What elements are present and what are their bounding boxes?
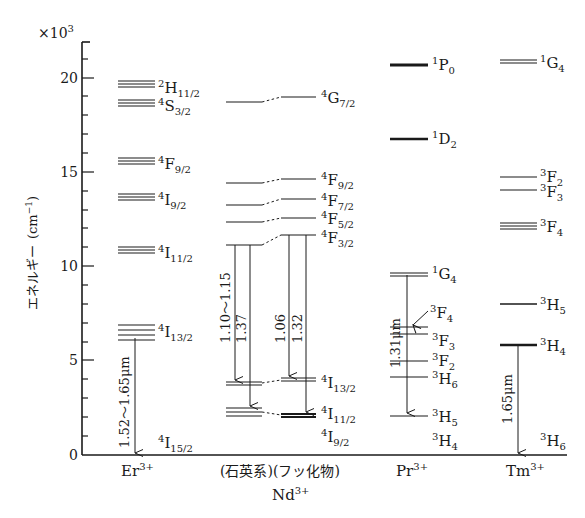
svg-text:4I9/2: 4I9/2	[321, 427, 349, 448]
er-term-labels: 2H11/2 4S3/2 4F9/2 4I9/2 4I11/2 4I13/2 4…	[158, 78, 200, 454]
er-transition-label: 1.52〜1.65μm	[117, 356, 132, 448]
svg-text:3F4: 3F4	[540, 217, 563, 238]
svg-text:3F3: 3F3	[432, 331, 455, 352]
pr-ion-levels: 1.31μm 1P0 1D2 1G4 3F4 3F3 3F2 3H6 3H5 3…	[388, 55, 458, 452]
nd-ion-levels: 1.10〜1.15 1.37 1.06 1.32 4G7/2 4F9/2 4F7…	[218, 88, 356, 448]
svg-text:4I11/2: 4I11/2	[321, 404, 356, 425]
svg-text:3H6: 3H6	[432, 369, 458, 390]
nd-silica-levels	[226, 102, 262, 416]
nd-host-connectors	[262, 97, 281, 415]
svg-text:4F5/2: 4F5/2	[321, 209, 354, 230]
svg-text:1G4: 1G4	[432, 264, 457, 285]
ion-label-nd-hosts: (石英系)(フッ化物)	[220, 463, 340, 479]
term-er-4I11/2: 4I11/2	[158, 243, 193, 264]
svg-text:3H5: 3H5	[432, 407, 458, 428]
nd-fluoride-label-b: 1.32	[290, 314, 305, 343]
y-tick-label-0: 0	[69, 447, 78, 463]
ion-labels: Er3+ (石英系)(フッ化物) Nd3+ Pr3+ Tm3+	[121, 461, 545, 504]
nd-term-labels: 4G7/2 4F9/2 4F7/2 4F5/2 4F3/2 4I13/2 4I1…	[321, 88, 356, 448]
ion-label-er: Er3+	[121, 461, 154, 480]
ion-label-nd: Nd3+	[272, 485, 309, 504]
y-axis: ×103 0 5 10 15 20 エネルギー(cm−1)	[24, 23, 94, 463]
energy-level-diagram: ×103 0 5 10 15 20 エネルギー(cm−1)	[0, 0, 585, 518]
tm-transition-label: 1.65μm	[500, 374, 515, 424]
term-er-4I13/2: 4I13/2	[158, 322, 193, 343]
er-ion-levels: 2H11/2 4S3/2 4F9/2 4I9/2 4I11/2 4I13/2 4…	[117, 78, 200, 454]
nd-silica-label-a: 1.10〜1.15	[218, 272, 233, 343]
svg-text:3H6: 3H6	[540, 431, 566, 452]
svg-text:4F9/2: 4F9/2	[321, 170, 354, 191]
tm-term-labels: 1G4 3F2 3F3 3F4 3H5 3H4 3H6	[540, 53, 566, 452]
term-er-4F9/2: 4F9/2	[158, 154, 191, 175]
svg-text:4G7/2: 4G7/2	[321, 88, 355, 109]
svg-text:3F4: 3F4	[430, 303, 453, 324]
y-major-ticks	[82, 78, 94, 360]
tm-ion-levels: 1.65μm 1G4 3F2 3F3 3F4 3H5 3H4 3H6	[500, 53, 566, 453]
term-er-4I9/2: 4I9/2	[158, 190, 186, 211]
axis-multiplier: ×103	[38, 23, 74, 41]
y-minor-ticks	[82, 59, 88, 436]
svg-text:1D2: 1D2	[432, 129, 457, 150]
term-er-4S3/2: 4S3/2	[158, 96, 191, 117]
svg-text:4I13/2: 4I13/2	[321, 373, 356, 394]
svg-text:3H5: 3H5	[540, 295, 566, 316]
svg-text:3H4: 3H4	[432, 431, 458, 452]
svg-text:1G4: 1G4	[540, 53, 565, 74]
term-er-4I15/2: 4I15/2	[158, 433, 193, 454]
nd-fluoride-label-a: 1.06	[273, 314, 288, 343]
y-tick-label-20: 20	[60, 70, 78, 86]
svg-text:3H4: 3H4	[540, 336, 566, 357]
svg-text:4F3/2: 4F3/2	[321, 228, 354, 249]
pr-term-labels: 1P0 1D2 1G4 3F4 3F3 3F2 3H6 3H5 3H4	[430, 55, 458, 452]
ion-label-pr: Pr3+	[396, 461, 428, 480]
nd-fluoride-levels	[281, 97, 316, 417]
pr-transition-label: 1.31μm	[388, 318, 403, 368]
y-tick-label-15: 15	[60, 164, 78, 180]
y-tick-label-10: 10	[60, 258, 78, 274]
ion-label-tm: Tm3+	[506, 461, 545, 480]
y-axis-label: エネルギー(cm−1)	[24, 196, 40, 310]
pr-3f4-pointer-arrow	[413, 311, 428, 325]
y-tick-label-5: 5	[69, 352, 78, 368]
svg-text:1P0: 1P0	[432, 55, 455, 76]
nd-silica-label-b: 1.37	[234, 314, 249, 343]
